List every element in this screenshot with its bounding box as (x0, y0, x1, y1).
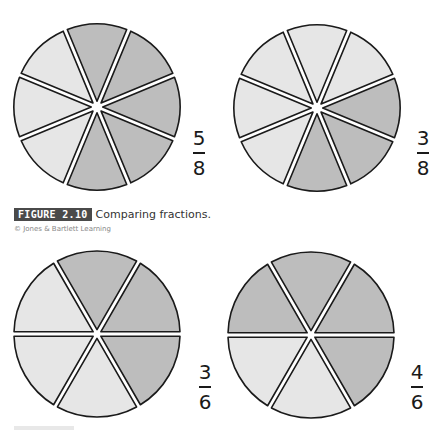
pie-center (314, 105, 320, 111)
fraction-label-three-eighths: 3 8 (412, 127, 434, 179)
denominator: 8 (417, 156, 430, 180)
numerator: 5 (193, 126, 206, 150)
pie-center (94, 104, 100, 110)
fraction-label-four-sixths: 4 6 (406, 361, 428, 413)
figure-credit: © Jones & Bartlett Learning (14, 225, 211, 233)
denominator: 8 (193, 156, 206, 180)
numerator: 3 (199, 360, 212, 384)
fraction-label-three-sixths: 3 6 (194, 361, 216, 413)
figure-number-badge: FIGURE 2.10 (14, 208, 92, 221)
denominator: 6 (411, 390, 424, 414)
fraction-bar (411, 386, 423, 388)
fraction-label-five-eighths: 5 8 (188, 127, 210, 179)
fraction-bar (199, 386, 211, 388)
figure-title: Comparing fractions. (96, 208, 211, 221)
figure-caption: FIGURE 2.10Comparing fractions. © Jones … (14, 204, 211, 233)
pie-chart-4-6 (228, 252, 394, 418)
numerator: 4 (411, 360, 424, 384)
numerator: 3 (417, 126, 430, 150)
pie-chart-5-8 (14, 24, 180, 190)
pie-chart-3-8 (234, 25, 400, 191)
pie-chart-3-6 (14, 251, 180, 417)
pie-center (94, 331, 100, 337)
fraction-bar (193, 152, 205, 154)
denominator: 6 (199, 390, 212, 414)
pie-center (308, 332, 314, 338)
fraction-bar (417, 152, 429, 154)
next-figure-label-partial (14, 426, 74, 430)
